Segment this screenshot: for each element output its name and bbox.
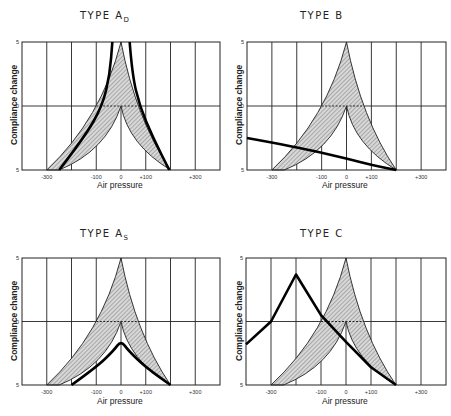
y-tick-label: 5 (240, 382, 243, 388)
y-tick-label: 5 (241, 39, 244, 45)
x-tick-label: -300 (41, 389, 52, 395)
y-axis-label-as: Compliance change (9, 281, 19, 361)
y-axis-label-c: Compliance change (234, 281, 244, 361)
chart-panel-1: 505-300-1000+100+300 (241, 39, 446, 180)
y-tick-label: 5 (16, 255, 19, 261)
x-tick-label: -300 (266, 174, 277, 180)
y-tick-label: 5 (16, 382, 19, 388)
x-axis-label-c: Air pressure (322, 396, 368, 406)
y-axis-label-b: Compliance change (234, 65, 244, 145)
x-tick-label: +300 (415, 389, 427, 395)
x-tick-label: +300 (189, 174, 201, 180)
x-tick-label: +300 (415, 174, 427, 180)
x-axis-label-b: Air pressure (322, 180, 368, 190)
x-tick-label: 0 (344, 389, 347, 395)
x-tick-label: -300 (265, 389, 276, 395)
x-axis-label-as: Air pressure (97, 396, 143, 406)
tympanogram-charts: 505-300-1000+100+300505-300-1000+100+300… (0, 0, 451, 416)
x-tick-label: -100 (91, 389, 102, 395)
chart-panel-3: 505-300-1000+100+300 (240, 255, 446, 395)
x-tick-label: +100 (140, 389, 152, 395)
x-tick-label: -100 (315, 389, 326, 395)
x-tick-label: +300 (189, 389, 201, 395)
y-tick-label: 5 (16, 39, 19, 45)
x-tick-label: -300 (41, 174, 52, 180)
y-tick-label: 5 (240, 255, 243, 261)
chart-panel-0: 505-300-1000+100+300 (16, 39, 220, 180)
x-axis-label-ad: Air pressure (97, 180, 143, 190)
x-tick-label: +100 (365, 389, 377, 395)
y-tick-label: 5 (241, 167, 244, 173)
chart-panel-2: 505-300-1000+100+300 (16, 255, 220, 395)
x-tick-label: 0 (119, 389, 122, 395)
y-tick-label: 5 (16, 167, 19, 173)
y-axis-label-ad: Compliance change (9, 65, 19, 145)
